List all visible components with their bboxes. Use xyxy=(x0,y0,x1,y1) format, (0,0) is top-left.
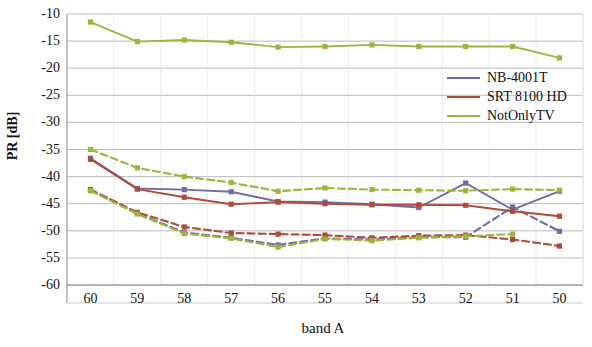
series-marker xyxy=(369,42,374,47)
x-axis-tick-label: 50 xyxy=(540,291,580,307)
x-axis-tick-label: 59 xyxy=(117,291,157,307)
y-axis-tick-label: -20 xyxy=(14,61,60,75)
x-axis-title: band A xyxy=(67,320,579,337)
series-marker xyxy=(135,39,140,44)
legend-item: NotOnlyTV xyxy=(447,106,567,125)
series-marker xyxy=(463,44,468,49)
series-marker xyxy=(369,238,374,243)
legend-label: NotOnlyTV xyxy=(487,106,555,125)
series-marker xyxy=(510,187,515,192)
legend-color-swatch xyxy=(447,115,480,117)
series-marker xyxy=(416,235,421,240)
y-axis-tick-label: -50 xyxy=(14,224,60,238)
series-marker xyxy=(416,188,421,193)
series-marker xyxy=(463,203,468,208)
series-marker xyxy=(557,243,562,248)
series-marker xyxy=(229,230,234,235)
series-marker xyxy=(463,188,468,193)
series-marker xyxy=(510,237,515,242)
series-marker xyxy=(322,201,327,206)
series-marker xyxy=(182,195,187,200)
series-marker xyxy=(229,202,234,207)
x-axis-tick-label: 52 xyxy=(446,291,486,307)
y-axis-tick-label: -55 xyxy=(14,251,60,265)
legend-label: SRT 8100 HD xyxy=(487,87,567,106)
series-marker xyxy=(88,157,93,162)
series-marker xyxy=(135,165,140,170)
y-axis-tick-label: -40 xyxy=(14,170,60,184)
y-axis-tick-label: -60 xyxy=(14,278,60,292)
x-axis-tick-label: 60 xyxy=(70,291,110,307)
series-marker xyxy=(557,214,562,219)
series-marker xyxy=(88,147,93,152)
y-axis-tick-label: -45 xyxy=(14,197,60,211)
legend-item: SRT 8100 HD xyxy=(447,87,567,106)
y-axis-tick-label: -35 xyxy=(14,143,60,157)
series-marker xyxy=(229,180,234,185)
legend-label: NB-4001T xyxy=(487,68,548,87)
series-marker xyxy=(182,174,187,179)
x-axis-tick-label: 54 xyxy=(352,291,392,307)
series-marker xyxy=(463,234,468,239)
series-marker xyxy=(369,202,374,207)
series-marker xyxy=(510,44,515,49)
series-marker xyxy=(557,55,562,60)
series-marker xyxy=(229,189,234,194)
x-axis-tick-label: 58 xyxy=(164,291,204,307)
series-marker xyxy=(322,44,327,49)
x-axis-tick-label: 57 xyxy=(211,291,251,307)
series-marker xyxy=(182,187,187,192)
series-marker xyxy=(322,185,327,190)
series-marker xyxy=(229,40,234,45)
series-marker xyxy=(276,232,281,237)
series-marker xyxy=(416,44,421,49)
series-marker xyxy=(229,236,234,241)
series-marker xyxy=(276,189,281,194)
series-marker xyxy=(88,20,93,25)
series-marker xyxy=(135,211,140,216)
legend-item: NB-4001T xyxy=(447,68,567,87)
x-axis-tick-label: 51 xyxy=(493,291,533,307)
legend-color-swatch xyxy=(447,96,480,98)
chart-figure: PR [dB] -10-15-20-25-30-35-40-45-50-55-6… xyxy=(0,0,592,347)
series-marker xyxy=(88,188,93,193)
series-marker xyxy=(182,231,187,236)
series-marker xyxy=(182,37,187,42)
y-axis-tick-label: -30 xyxy=(14,115,60,129)
y-axis-tick-labels: -10-15-20-25-30-35-40-45-50-55-60 xyxy=(8,0,60,300)
series-marker xyxy=(463,181,468,186)
series-marker xyxy=(510,232,515,237)
x-axis-tick-label: 56 xyxy=(258,291,298,307)
series-marker xyxy=(322,236,327,241)
series-marker xyxy=(510,209,515,214)
series-marker xyxy=(135,187,140,192)
series-marker xyxy=(276,200,281,205)
series-marker xyxy=(557,188,562,193)
y-axis-tick-label: -25 xyxy=(14,88,60,102)
chart-legend: NB-4001TSRT 8100 HDNotOnlyTV xyxy=(447,68,567,125)
x-axis-tick-label: 55 xyxy=(305,291,345,307)
series-marker xyxy=(276,45,281,50)
y-axis-tick-label: -15 xyxy=(14,34,60,48)
series-marker xyxy=(369,187,374,192)
series-marker xyxy=(276,245,281,250)
y-axis-tick-label: -10 xyxy=(14,7,60,21)
series-marker xyxy=(557,229,562,234)
legend-color-swatch xyxy=(447,77,480,79)
x-axis-tick-label: 53 xyxy=(399,291,439,307)
series-marker xyxy=(182,224,187,229)
series-marker xyxy=(416,202,421,207)
